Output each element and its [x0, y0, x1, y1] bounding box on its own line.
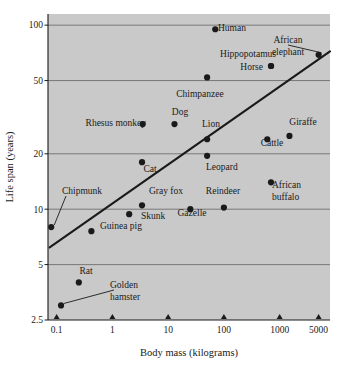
data-point-giraffe — [286, 133, 292, 139]
point-label-chipmunk: Chipmunk — [62, 186, 102, 196]
x-axis-title: Body mass (kilograms) — [140, 347, 238, 359]
data-point-guinea-pig — [88, 228, 94, 234]
point-label-line: Gazelle — [177, 208, 206, 218]
point-label-line: Human — [218, 23, 246, 33]
y-tick-label-10: 10 — [34, 205, 44, 215]
point-label-line: Skunk — [141, 211, 166, 221]
point-label-skunk: Skunk — [141, 211, 166, 221]
data-point-skunk — [126, 211, 132, 217]
x-tick-label-5000: 5000 — [309, 325, 328, 335]
point-label-line: Rhesus monkey — [86, 118, 147, 128]
y-axis-tick-labels: 2.55102050100 — [29, 20, 48, 325]
data-point-african-elephant — [316, 52, 322, 58]
point-label-chimpanzee: Chimpanzee — [176, 89, 223, 99]
point-label-cattle: Cattle — [261, 138, 284, 148]
point-label-line: buffalo — [272, 192, 300, 202]
point-label-line: Horse — [240, 62, 263, 72]
x-tick-label-1: 1 — [110, 325, 115, 335]
data-point-golden-hamster — [58, 302, 64, 308]
point-label-line: Giraffe — [289, 117, 316, 127]
point-label-line: elephant — [272, 47, 305, 57]
x-tick-label-1000: 1000 — [270, 325, 289, 335]
data-point-rat — [76, 279, 82, 285]
point-label-lion: Lion — [202, 119, 220, 129]
point-label-line: Cat — [143, 164, 157, 174]
point-label-cat: Cat — [143, 164, 157, 174]
point-label-leopard: Leopard — [206, 162, 238, 172]
point-label-line: Leopard — [206, 162, 238, 172]
point-label-line: Rat — [79, 266, 93, 276]
point-label-line: Chipmunk — [62, 186, 102, 196]
data-point-gray-fox — [139, 202, 145, 208]
y-tick-label-20: 20 — [34, 149, 44, 159]
x-axis-tick-labels: 0.111010010005000 — [51, 325, 329, 335]
point-label-line: Guinea pig — [100, 221, 142, 231]
data-point-leopard — [204, 153, 210, 159]
point-label-gray-fox: Gray fox — [149, 186, 183, 196]
point-label-gazelle: Gazelle — [177, 208, 206, 218]
data-point-horse — [268, 63, 274, 69]
data-point-chimpanzee — [204, 74, 210, 80]
point-label-line: African — [273, 35, 302, 45]
chart-figure: 2.55102050100 0.111010010005000 Goldenha… — [0, 0, 344, 373]
point-label-rhesus-monkey: Rhesus monkey — [86, 118, 147, 128]
point-label-dog: Dog — [172, 107, 189, 117]
point-label-hippopotamus: Hippopotamus — [220, 49, 276, 59]
point-label-line: Lion — [202, 119, 220, 129]
point-label-line: Reindeer — [206, 186, 241, 196]
point-label-line: African — [272, 180, 301, 190]
point-label-horse: Horse — [240, 62, 263, 72]
point-label-rat: Rat — [79, 266, 93, 276]
x-tick-label-10: 10 — [163, 325, 173, 335]
point-label-line: Dog — [172, 107, 189, 117]
y-tick-label-100: 100 — [29, 20, 44, 30]
point-label-line: Golden — [110, 280, 138, 290]
data-point-chipmunk — [48, 224, 54, 230]
lifespan-bodymass-scatter-plot: 2.55102050100 0.111010010005000 Goldenha… — [0, 0, 344, 373]
point-label-line: Hippopotamus — [220, 49, 276, 59]
point-label-reindeer: Reindeer — [206, 186, 241, 196]
point-label-line: Chimpanzee — [176, 89, 223, 99]
x-tick-label-100: 100 — [217, 325, 232, 335]
point-label-giraffe: Giraffe — [289, 117, 316, 127]
data-point-reindeer — [221, 205, 227, 211]
data-point-dog — [171, 121, 177, 127]
y-tick-label-5: 5 — [38, 260, 43, 270]
point-label-line: hamster — [110, 292, 141, 302]
point-label-human: Human — [218, 23, 246, 33]
y-axis-title: Life span (years) — [4, 131, 16, 203]
y-tick-label-50: 50 — [34, 76, 44, 86]
x-tick-label-0.1: 0.1 — [51, 325, 63, 335]
point-label-guinea-pig: Guinea pig — [100, 221, 142, 231]
y-tick-label-2.5: 2.5 — [31, 315, 43, 325]
point-label-line: Cattle — [261, 138, 284, 148]
point-label-line: Gray fox — [149, 186, 183, 196]
data-point-lion — [204, 136, 210, 142]
